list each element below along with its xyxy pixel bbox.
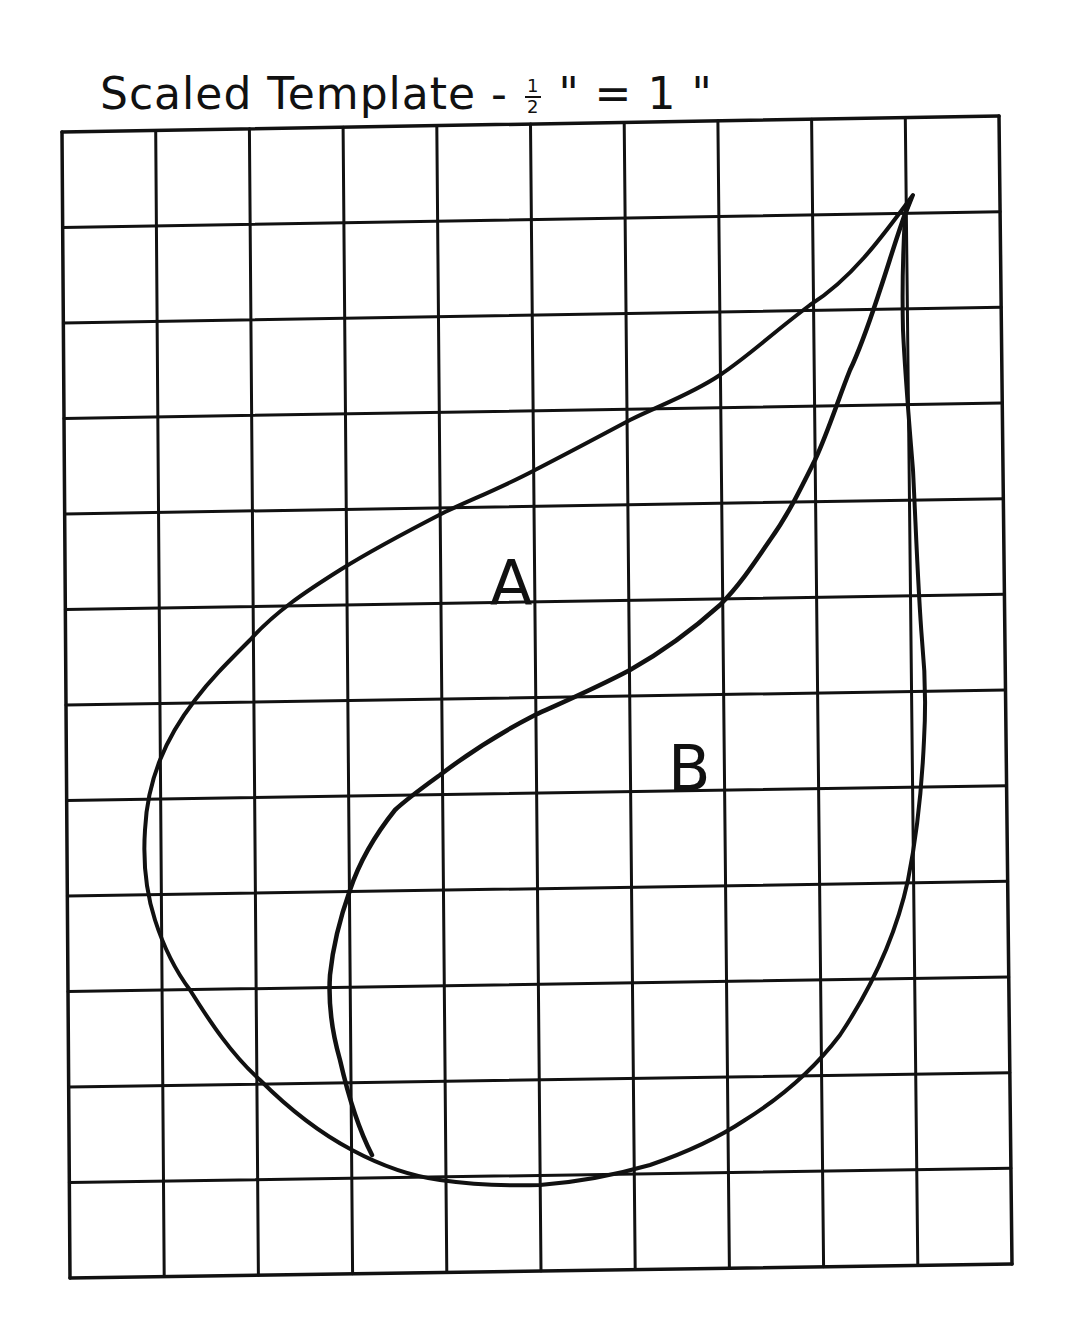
template-drawing [0, 0, 1072, 1339]
label-piece-b: B [668, 738, 711, 800]
label-piece-a: A [490, 553, 532, 615]
grid [62, 116, 1012, 1278]
inner-curve [329, 200, 910, 1155]
